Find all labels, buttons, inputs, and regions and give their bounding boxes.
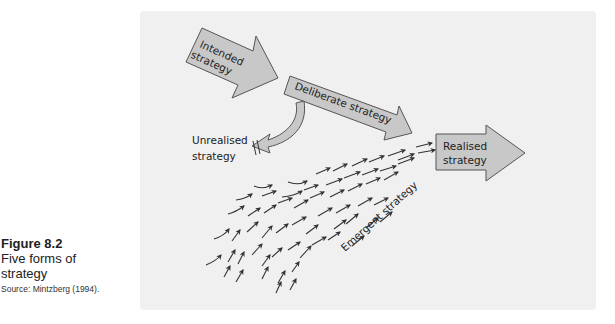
unrealised-label-2: strategy [192, 150, 236, 162]
unrealised-label-1: Unrealised [192, 134, 248, 146]
realised-strategy-arrow: Realised strategy [436, 125, 525, 181]
unrealised-strategy-arrow [252, 101, 305, 155]
emergent-strategy-arrows [206, 143, 435, 293]
intended-strategy-arrow: Intended strategy [186, 28, 278, 98]
five-forms-diagram: Intended strategy Deliberate strategy Un… [0, 0, 615, 324]
realised-label-2: strategy [443, 154, 487, 166]
realised-label-1: Realised [443, 140, 487, 152]
